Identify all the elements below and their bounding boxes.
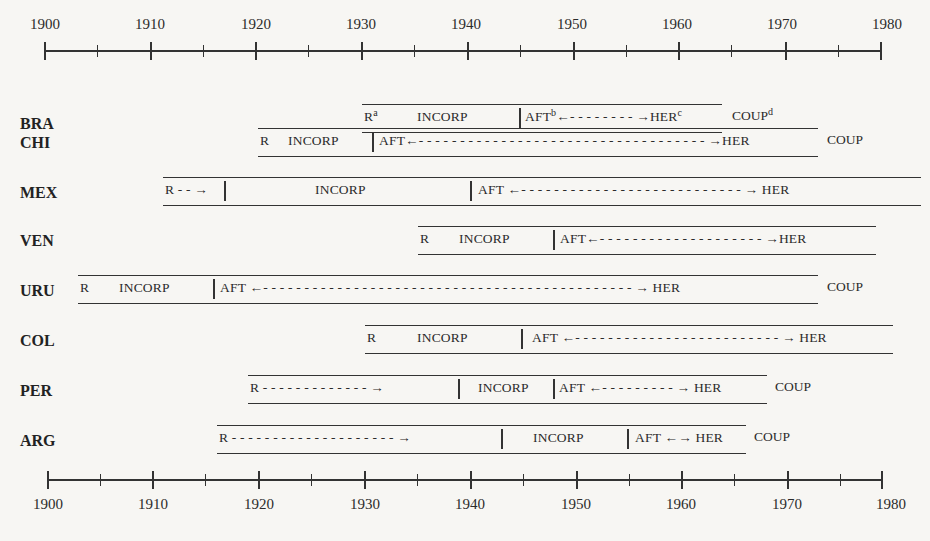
phase-aft: AFTb←- - - - - - - - →HERc — [525, 109, 682, 125]
minor-tick — [205, 474, 206, 486]
phase-r: R — [80, 280, 89, 296]
coup-marker-uru: COUP — [827, 279, 863, 295]
phase-incorp: INCORP — [478, 380, 529, 396]
timeline-bar-arg: R - - - - - - - - - - - - - - - - - - - … — [217, 425, 746, 454]
major-tick — [150, 42, 152, 60]
minor-tick — [203, 45, 204, 57]
minor-tick — [731, 45, 732, 57]
major-tick — [880, 42, 882, 60]
coup-marker-per: COUP — [775, 379, 811, 395]
coup-marker-chi: COUP — [827, 132, 863, 148]
timeline-bar-per: R - - - - - - - - - - - - - → INCORP AFT… — [248, 375, 767, 404]
row-label-arg: ARG — [20, 432, 56, 450]
major-tick — [576, 471, 578, 489]
major-tick — [364, 471, 366, 489]
minor-tick — [417, 474, 418, 486]
row-label-chi: CHI — [20, 134, 50, 152]
row-label-per: PER — [20, 382, 52, 400]
phase-separator — [213, 279, 215, 299]
minor-tick — [308, 45, 309, 57]
axis-label-1930: 1930 — [340, 496, 390, 513]
phase-r: R — [260, 133, 269, 149]
axis-line — [45, 50, 882, 52]
minor-tick — [629, 474, 630, 486]
phase-aft: AFT ←- - - - - - - - - → HER — [559, 380, 721, 396]
axis-label-1920: 1920 — [231, 16, 281, 33]
coup-marker-arg: COUP — [754, 429, 790, 445]
timeline-bar-col: R INCORP AFT ←- - - - - - - - - - - - - … — [365, 325, 893, 354]
phase-r: R — [420, 231, 429, 247]
row-label-bra: BRA — [20, 115, 54, 133]
axis-label-1970: 1970 — [757, 16, 807, 33]
axis-label-1980: 1980 — [862, 16, 912, 33]
phase-separator — [470, 181, 472, 201]
phase-r: R - - - - - - - - - - - - - - - - - - - … — [219, 430, 411, 446]
major-tick — [678, 42, 680, 60]
row-label-uru: URU — [20, 282, 55, 300]
axis-label-1980: 1980 — [866, 496, 916, 513]
phase-separator — [627, 429, 629, 449]
timeline-bar-mex: R - - → INCORP AFT ←- - - - - - - - - - … — [163, 177, 921, 206]
axis-label-1940: 1940 — [445, 496, 495, 513]
major-tick — [44, 42, 46, 60]
phase-separator — [519, 108, 521, 128]
phase-aft: AFT←- - - - - - - - - - - - - - - - - - … — [560, 231, 807, 247]
phase-separator — [224, 181, 226, 201]
phase-aft: AFT ←- - - - - - - - - - - - - - - - - -… — [532, 330, 827, 346]
axis-label-1950: 1950 — [547, 16, 597, 33]
minor-tick — [97, 45, 98, 57]
phase-incorp: INCORP — [459, 231, 510, 247]
major-tick — [681, 471, 683, 489]
phase-incorp: INCORP — [288, 133, 339, 149]
phase-incorp: INCORP — [417, 330, 468, 346]
phase-aft: AFT ←- - - - - - - - - - - - - - - - - -… — [478, 182, 789, 198]
major-tick — [785, 42, 787, 60]
major-tick — [467, 42, 469, 60]
phase-incorp: INCORP — [417, 109, 468, 125]
axis-label-1940: 1940 — [441, 16, 491, 33]
minor-tick — [626, 45, 627, 57]
major-tick — [255, 42, 257, 60]
coup-marker-bra: COUPd — [732, 108, 773, 124]
major-tick — [787, 471, 789, 489]
phase-incorp: INCORP — [315, 182, 366, 198]
minor-tick — [100, 474, 101, 486]
axis-label-1920: 1920 — [234, 496, 284, 513]
phase-separator — [501, 429, 503, 449]
minor-tick — [838, 45, 839, 57]
phase-separator — [521, 329, 523, 349]
phase-incorp: INCORP — [119, 280, 170, 296]
phase-r: R — [367, 330, 376, 346]
timeline-bar-uru: R INCORP AFT ←- - - - - - - - - - - - - … — [78, 275, 818, 304]
phase-separator — [553, 379, 555, 399]
axis-line — [47, 479, 882, 481]
phase-r: R - - → — [165, 182, 208, 198]
timeline-bar-chi: R INCORP AFT←- - - - - - - - - - - - - -… — [258, 128, 818, 157]
major-tick — [573, 42, 575, 60]
phase-r: R - - - - - - - - - - - - - → — [250, 380, 384, 396]
major-tick — [361, 42, 363, 60]
bottom-axis: 1900 1910 1920 1930 1940 1950 1960 1970 … — [0, 470, 930, 510]
axis-label-1960: 1960 — [656, 496, 706, 513]
minor-tick — [311, 474, 312, 486]
phase-aft: AFT ←→ HER — [635, 430, 723, 446]
minor-tick — [734, 474, 735, 486]
row-label-mex: MEX — [20, 184, 57, 202]
axis-label-1900: 1900 — [23, 496, 73, 513]
phase-separator — [458, 379, 460, 399]
row-label-col: COL — [20, 332, 55, 350]
major-tick — [470, 471, 472, 489]
axis-label-1950: 1950 — [551, 496, 601, 513]
minor-tick — [523, 474, 524, 486]
row-label-ven: VEN — [20, 232, 54, 250]
major-tick — [881, 471, 883, 489]
axis-label-1910: 1910 — [125, 16, 175, 33]
phase-separator — [553, 230, 555, 250]
major-tick — [152, 471, 154, 489]
major-tick — [47, 471, 49, 489]
phase-aft: AFT←- - - - - - - - - - - - - - - - - - … — [379, 133, 750, 149]
axis-label-1960: 1960 — [652, 16, 702, 33]
minor-tick — [520, 45, 521, 57]
axis-label-1910: 1910 — [128, 496, 178, 513]
phase-r: Ra — [364, 109, 378, 125]
